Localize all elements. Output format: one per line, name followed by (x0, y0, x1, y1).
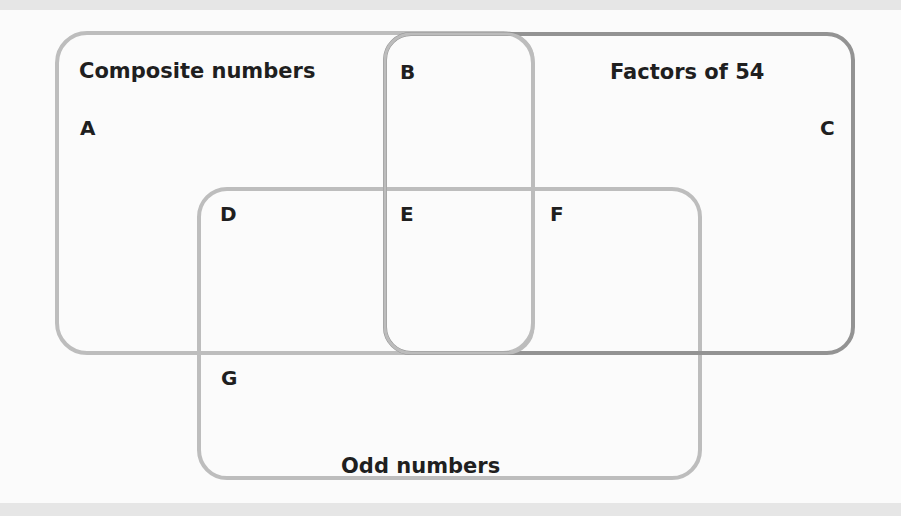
region-f-label: F (550, 204, 564, 224)
region-b-label: B (400, 62, 415, 82)
factors-of-54-label: Factors of 54 (610, 62, 764, 83)
region-d-label: D (220, 204, 237, 224)
region-a-label: A (80, 118, 95, 138)
odd-numbers-set (199, 189, 700, 478)
region-c-label: C (820, 118, 835, 138)
composite-numbers-label: Composite numbers (79, 61, 315, 82)
region-e-label: E (400, 204, 414, 224)
region-g-label: G (221, 368, 237, 388)
odd-numbers-label: Odd numbers (341, 456, 500, 477)
